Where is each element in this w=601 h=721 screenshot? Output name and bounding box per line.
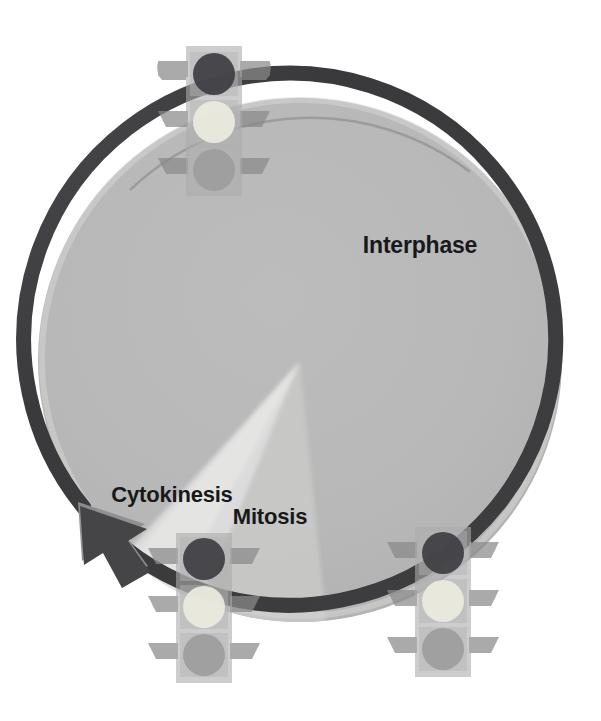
label-interphase: Interphase	[363, 232, 477, 259]
hood-bot-left	[387, 637, 417, 653]
hood-bot-right	[230, 643, 260, 659]
green-light	[422, 628, 464, 670]
yellow-light	[193, 101, 235, 143]
diagram-canvas	[0, 0, 601, 721]
traffic-light-m-checkpoint[interactable]	[387, 527, 499, 677]
cell-cycle-diagram: Interphase Cytokinesis Mitosis	[0, 0, 601, 721]
hood-bot-right	[469, 637, 499, 653]
hood-mid-right	[469, 590, 499, 606]
traffic-light-g2-checkpoint[interactable]	[148, 533, 260, 683]
hood-mid-left	[158, 111, 188, 127]
hood-top-right	[469, 542, 499, 558]
label-mitosis: Mitosis	[233, 504, 307, 530]
hood-mid-left	[148, 596, 178, 612]
traffic-light-g1-checkpoint[interactable]	[157, 46, 271, 196]
yellow-light	[422, 580, 464, 622]
yellow-light	[183, 586, 225, 628]
hood-bot-left	[148, 643, 178, 659]
red-light	[183, 538, 225, 580]
label-cytokinesis: Cytokinesis	[111, 482, 232, 508]
green-light	[193, 149, 235, 191]
green-light	[183, 634, 225, 676]
red-light	[193, 53, 235, 95]
red-light	[422, 532, 464, 574]
